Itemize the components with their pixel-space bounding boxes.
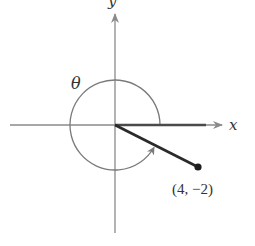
terminal-side-ray xyxy=(115,125,198,167)
terminal-point xyxy=(194,163,201,170)
point-label: (4, −2) xyxy=(172,181,213,198)
y-axis-label: y xyxy=(107,0,117,10)
diagram-canvas: x y θ (4, −2) xyxy=(0,0,255,246)
theta-label: θ xyxy=(71,74,81,93)
x-axis-label: x xyxy=(229,116,238,134)
